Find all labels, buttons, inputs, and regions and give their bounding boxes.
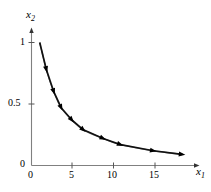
y-tick-label-1: 1 xyxy=(20,37,25,47)
y-tick-label-0point5: 0.5 xyxy=(8,98,21,108)
x-axis-label: x1 xyxy=(196,166,205,180)
curve-segment xyxy=(46,70,53,92)
data-point-marker xyxy=(50,88,57,96)
data-point-marker xyxy=(178,152,185,158)
x-axis-label-subscript: 1 xyxy=(201,171,205,180)
y-axis-label: x2 xyxy=(26,9,35,23)
data-curve xyxy=(40,43,182,155)
curve-segment xyxy=(120,145,153,151)
y-tick-label-0: 0 xyxy=(20,159,25,169)
x-tick-label-10: 10 xyxy=(107,170,117,180)
x-tick-label-5: 5 xyxy=(69,170,74,180)
x-tick-label-0: 0 xyxy=(28,170,33,180)
curve-segment xyxy=(153,151,182,155)
plot-area xyxy=(0,0,211,192)
y-axis-label-subscript: 2 xyxy=(31,14,35,23)
x-tick-label-15: 15 xyxy=(149,170,159,180)
curve-segment xyxy=(40,43,47,70)
data-point-marker xyxy=(99,135,107,142)
chart-figure: x2 x1 1 0.5 0 0 5 10 15 xyxy=(0,0,211,192)
